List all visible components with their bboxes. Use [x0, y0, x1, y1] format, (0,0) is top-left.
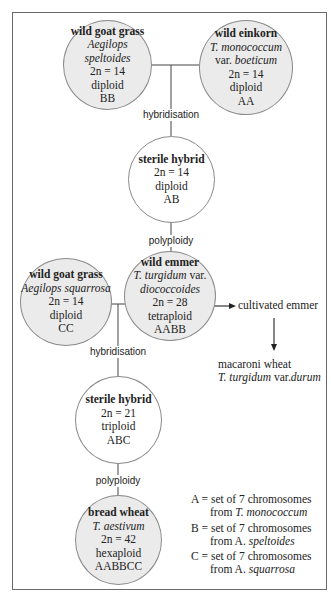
legend-source: from T. monococcum [191, 506, 312, 519]
node-genome: AA [238, 95, 255, 109]
process-polyploidy-1: polyploidy [148, 235, 194, 247]
variety-name: durum [291, 371, 321, 383]
node-name: bread wheat [88, 506, 149, 520]
node-species: Aegilops speltoides [64, 38, 151, 65]
node-ploidy: diploid [230, 81, 263, 95]
node-name: sterile hybrid [138, 153, 204, 167]
node-ploidy: diploid [50, 309, 83, 323]
node-variety: diococcoides [140, 283, 200, 297]
macaroni-wheat-species: T. turgidum var.durum [218, 371, 321, 384]
node-wild-goat-grass-speltoides: wild goat grass Aegilops speltoides 2n =… [63, 20, 152, 110]
node-genome: CC [58, 322, 73, 336]
node-genome: BB [100, 92, 115, 106]
node-sterile-hybrid-abc: sterile hybrid 2n = 21 triploid ABC [75, 376, 162, 464]
legend-source: from A. speltoides [191, 535, 312, 548]
node-name: wild einkorn [215, 27, 277, 41]
arrow-right-icon [229, 303, 236, 309]
node-variety: var. boeticum [215, 54, 277, 68]
node-ploidy: diploid [91, 79, 124, 93]
node-ploidy: tetraploid [148, 310, 192, 324]
legend-item-a: A = set of 7 chromosomes from T. monococ… [191, 493, 312, 519]
legend-species: speltoides [249, 535, 295, 547]
legend-source: from A. squarrosa [191, 563, 312, 576]
node-name: wild goat grass [71, 25, 144, 39]
node-chromosomes: 2n = 14 [154, 166, 189, 180]
species-name: T. turgidum [218, 371, 271, 383]
legend-species: squarrosa [249, 563, 295, 575]
node-name: sterile hybrid [85, 393, 151, 407]
variety-prefix: var. [215, 54, 235, 66]
genome-legend: A = set of 7 chromosomes from T. monococ… [191, 493, 312, 579]
legend-item-b: B = set of 7 chromosomes from A. speltoi… [191, 522, 312, 548]
legend-definition: B = set of 7 chromosomes [191, 522, 312, 535]
node-name: wild emmer [141, 256, 199, 270]
cultivated-emmer-label: cultivated emmer [238, 299, 318, 312]
legend-definition: C = set of 7 chromosomes [191, 550, 312, 563]
legend-from: from A. [210, 563, 249, 575]
node-chromosomes: 2n = 42 [101, 533, 136, 547]
legend-from: from [210, 506, 235, 518]
node-wild-goat-grass-squarrosa: wild goat grass Aegilops squarrosa 2n = … [20, 258, 112, 346]
node-species: Aegilops squarrosa [21, 282, 110, 296]
var-label: var. [271, 371, 291, 383]
legend-item-c: C = set of 7 chromosomes from A. squarro… [191, 550, 312, 576]
process-polyploidy-2: polyploidy [95, 475, 141, 487]
node-ploidy: diploid [155, 180, 188, 194]
legend-from: from A. [210, 535, 249, 547]
process-hybridisation-2: hybridisation [89, 346, 147, 358]
arrow-down-icon [271, 344, 277, 351]
node-chromosomes: 2n = 14 [48, 295, 83, 309]
node-chromosomes: 2n = 14 [228, 68, 263, 82]
node-chromosomes: 2n = 14 [90, 65, 125, 79]
node-wild-einkorn: wild einkorn T. monococcum var. boeticum… [199, 20, 293, 115]
node-species: T. turgidum var. [134, 269, 207, 283]
node-genome: AABBCC [95, 560, 142, 574]
node-ploidy: triploid [102, 420, 136, 434]
node-name: wild goat grass [29, 268, 102, 282]
node-wild-emmer: wild emmer T. turgidum var. diococcoides… [124, 251, 216, 341]
node-bread-wheat: bread wheat T. aestivum 2n = 42 hexaploi… [75, 495, 162, 585]
node-genome: AB [164, 193, 180, 207]
process-hybridisation-1: hybridisation [142, 109, 200, 121]
node-species: T. monococcum [210, 41, 282, 55]
node-sterile-hybrid-ab: sterile hybrid 2n = 14 diploid AB [128, 136, 215, 223]
node-chromosomes: 2n = 21 [101, 407, 136, 421]
node-chromosomes: 2n = 28 [152, 296, 187, 310]
node-ploidy: hexaploid [96, 547, 141, 561]
species-suffix: var. [187, 269, 207, 281]
legend-species: T. monococcum [235, 506, 307, 518]
variety-name: boeticum [235, 54, 277, 66]
legend-definition: A = set of 7 chromosomes [191, 493, 312, 506]
species-name: T. turgidum [134, 269, 187, 281]
node-genome: AABB [154, 323, 186, 337]
node-species: T. aestivum [92, 520, 144, 534]
macaroni-wheat-label: macaroni wheat [218, 358, 291, 371]
node-genome: ABC [107, 434, 131, 448]
